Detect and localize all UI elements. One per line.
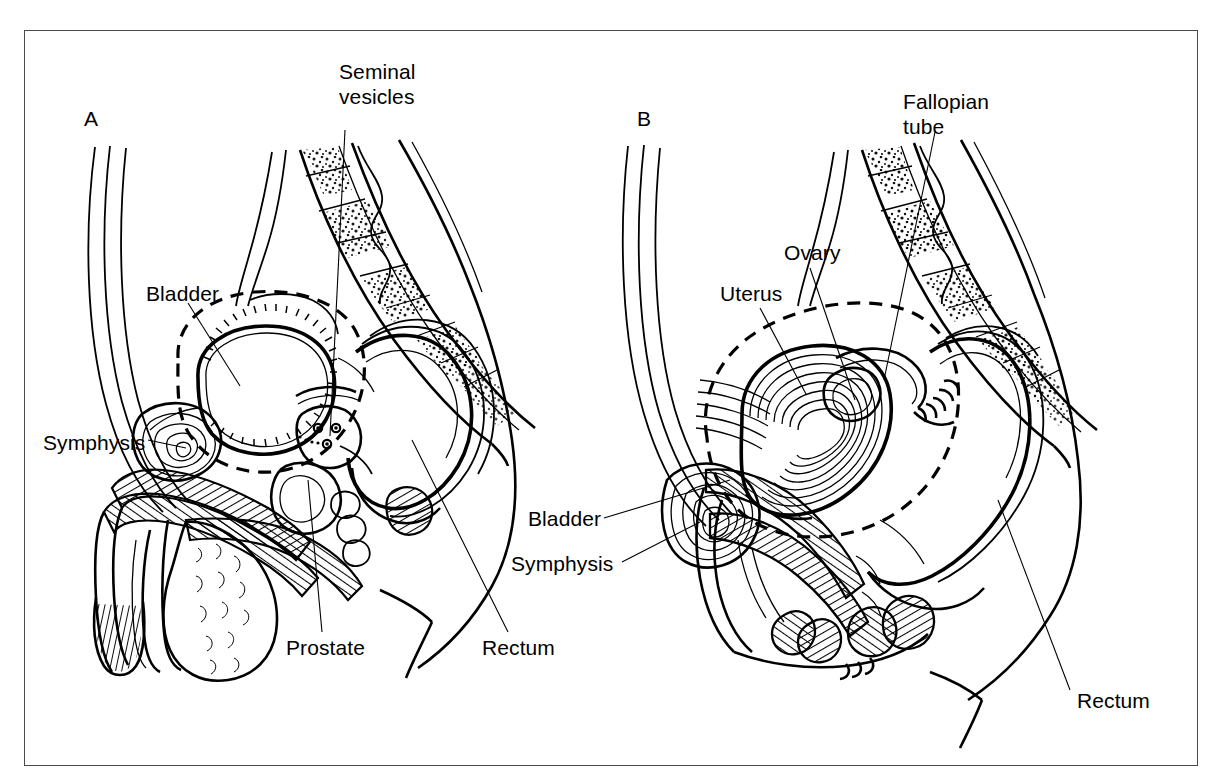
- label-rectum-b: Rectum: [1077, 689, 1150, 713]
- label-fallopian-tube-line1: Fallopian: [903, 89, 989, 114]
- label-prostate-a: Prostate: [286, 636, 365, 660]
- label-bladder-b: Bladder: [528, 507, 601, 531]
- label-fallopian-tube: Fallopian tube: [903, 89, 989, 139]
- label-seminal-vesicles-line2: vesicles: [339, 84, 416, 109]
- label-seminal-vesicles-line1: Seminal: [339, 59, 416, 84]
- label-bladder-a: Bladder: [146, 282, 219, 306]
- panel-letter-b: B: [637, 107, 651, 131]
- label-rectum-a: Rectum: [482, 636, 555, 660]
- label-fallopian-tube-line2: tube: [903, 114, 989, 139]
- figure-root: A B Seminal vesicles Bladder Symphysis P…: [0, 0, 1225, 783]
- label-uterus: Uterus: [720, 282, 782, 306]
- label-seminal-vesicles: Seminal vesicles: [339, 59, 416, 109]
- label-ovary: Ovary: [784, 241, 841, 265]
- label-symphysis-b: Symphysis: [511, 552, 613, 576]
- figure-frame: [24, 30, 1198, 766]
- label-symphysis-a: Symphysis: [43, 431, 145, 455]
- panel-letter-a: A: [84, 107, 98, 131]
